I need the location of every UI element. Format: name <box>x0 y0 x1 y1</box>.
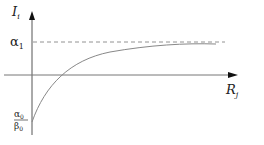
x-axis-label: Rj <box>225 82 239 99</box>
y-axis-label: Ii <box>11 4 20 21</box>
diagram-canvas: Ii Rj α1 α0 β0 <box>0 0 264 145</box>
y-axis-arrow-icon <box>29 11 35 20</box>
intercept-denominator: β0 <box>14 121 23 132</box>
x-axis-arrow-icon <box>228 72 238 78</box>
intercept-numerator: α0 <box>14 109 24 120</box>
curve <box>32 44 216 122</box>
asymptote-label: α1 <box>10 34 24 51</box>
